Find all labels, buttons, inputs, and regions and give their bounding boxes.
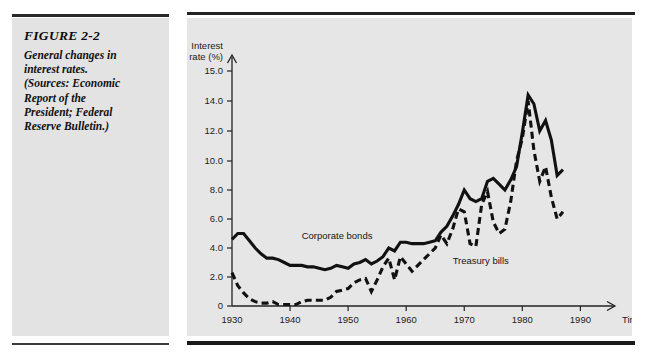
data-series-group — [232, 95, 563, 305]
y-axis-title-line-1: Interest — [191, 40, 223, 51]
interest-rate-line-chart: 02.04.06.08.010.012.014.015.0 1930194019… — [187, 18, 632, 336]
y-tick-label: 10.0 — [205, 155, 224, 166]
x-tick-label: 1990 — [570, 314, 591, 325]
y-tick-label: 6.0 — [210, 213, 223, 224]
caption-line: Reserve Bulletin.) — [24, 119, 160, 133]
caption-text-block: FIGURE 2-2 General changes in interest r… — [24, 28, 160, 133]
series-line-treasury-bills — [232, 101, 563, 305]
x-tick-label: 1960 — [396, 314, 417, 325]
caption-rule-top — [12, 14, 169, 17]
annotation-treasury-bills: Treasury bills — [453, 255, 509, 266]
x-tick-label: 1970 — [454, 314, 475, 325]
y-tick-label: 12.0 — [205, 125, 224, 136]
y-tick-label: 2.0 — [210, 271, 223, 282]
caption-line: interest rates. — [24, 62, 160, 76]
y-tick-label: 8.0 — [210, 184, 223, 195]
axis-titles: Interestrate (%)Time — [189, 40, 632, 325]
figure-caption: General changes in interest rates. (Sour… — [24, 48, 160, 133]
annotation-corporate-bonds: Corporate bonds — [302, 230, 373, 241]
caption-line: General changes in — [24, 48, 160, 62]
axis-lines — [228, 55, 616, 311]
chart-rule-bottom — [187, 341, 635, 345]
x-axis-title: Time — [622, 314, 632, 325]
caption-panel: FIGURE 2-2 General changes in interest r… — [12, 18, 169, 336]
x-tick-label: 1950 — [338, 314, 359, 325]
caption-line: Report of the — [24, 91, 160, 105]
y-tick-label: 14.0 — [205, 95, 224, 106]
x-tick-label: 1980 — [512, 314, 533, 325]
x-tick-label: 1940 — [279, 314, 300, 325]
chart-rule-top — [187, 12, 635, 15]
figure-page: FIGURE 2-2 General changes in interest r… — [0, 0, 657, 363]
caption-line: President; Federal — [24, 105, 160, 119]
y-tick-label: 4.0 — [210, 242, 223, 253]
series-line-corporate-bonds — [232, 95, 563, 270]
caption-line: (Sources: Economic — [24, 76, 160, 90]
figure-number: FIGURE 2-2 — [24, 28, 160, 44]
x-tick-label: 1930 — [221, 314, 242, 325]
y-tick-label: 15.0 — [205, 65, 224, 76]
y-tick-label: 0 — [218, 300, 223, 311]
caption-rule-bottom — [12, 343, 169, 345]
y-axis-ticks: 02.04.06.08.010.012.014.015.0 — [205, 65, 233, 311]
x-axis-ticks: 1930194019501960197019801990 — [221, 306, 591, 325]
y-axis-title-line-2: rate (%) — [189, 51, 223, 62]
